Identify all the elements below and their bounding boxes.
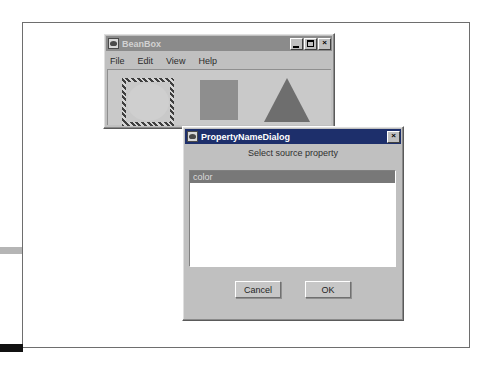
property-name-dialog[interactable]: PropertyNameDialog × Select source prope… [182,126,404,321]
menu-item-view[interactable]: View [166,56,192,66]
circle-bean[interactable] [127,83,169,121]
dialog-close-icon[interactable]: × [387,131,400,143]
dialog-button-row: Cancel OK [183,281,403,298]
property-list[interactable]: color [189,170,396,267]
beanbox-window[interactable]: BeanBox × File Edit View Help [103,33,335,129]
triangle-bean[interactable] [264,78,310,122]
menu-item-file[interactable]: File [110,56,132,66]
beanbox-coffee-icon [108,38,119,49]
cancel-button[interactable]: Cancel [235,281,281,298]
close-icon[interactable]: × [318,38,331,50]
dialog-coffee-icon [187,131,198,142]
dialog-title: PropertyNameDialog [201,132,387,142]
dialog-window-controls: × [387,131,400,143]
margin-mark-black [0,344,23,352]
dialog-titlebar[interactable]: PropertyNameDialog × [185,129,401,144]
menu-item-edit[interactable]: Edit [138,56,161,66]
beanbox-titlebar[interactable]: BeanBox × [106,36,332,51]
circle-bean-container [126,82,170,122]
maximize-button[interactable] [304,38,317,50]
list-item[interactable]: color [190,171,395,183]
beanbox-window-controls: × [290,38,331,50]
square-bean[interactable] [200,80,238,120]
beanbox-canvas[interactable] [107,69,331,125]
beanbox-menubar: File Edit View Help [106,53,332,68]
dialog-close-glyph: × [391,131,396,140]
menu-item-help[interactable]: Help [198,56,224,66]
minimize-button[interactable] [290,38,303,50]
ok-button[interactable]: OK [305,281,351,298]
beanbox-title: BeanBox [122,39,290,49]
dialog-prompt: Select source property [183,148,403,158]
close-glyph: × [322,38,327,47]
margin-mark-gray [0,247,22,254]
selection-handles-circle[interactable] [122,78,174,126]
